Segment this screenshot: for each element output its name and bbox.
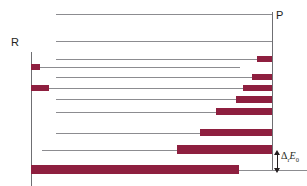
reaction-energy-label: ΔrE0 — [281, 151, 299, 165]
energy-level-line-2 — [56, 59, 272, 60]
product-bar-6 — [177, 145, 272, 154]
energy-level-line-4 — [56, 77, 272, 78]
reactant-label: R — [11, 37, 19, 48]
arrow-head-down-icon — [274, 168, 280, 173]
product-axis-line — [272, 12, 273, 170]
product-bar-0 — [257, 56, 272, 62]
product-bar-1 — [252, 74, 272, 80]
reaction-energy-arrow — [277, 153, 278, 170]
product-bar-3 — [236, 96, 272, 103]
energy-level-line-1 — [56, 41, 272, 42]
reactant-bar-0 — [31, 64, 40, 70]
energy-level-line-0 — [56, 14, 272, 15]
arrow-head-up-icon — [274, 150, 280, 155]
product-bar-5 — [200, 129, 272, 136]
reactant-bar-1 — [31, 85, 49, 91]
energy-level-line-3 — [33, 67, 240, 68]
product-label: P — [276, 10, 284, 21]
energy-level-line-5 — [33, 88, 243, 89]
ground-state-bar — [31, 165, 239, 174]
product-bar-4 — [216, 108, 272, 115]
energy-level-diagram: R P ΔrE0 — [0, 0, 307, 186]
product-bar-2 — [243, 85, 272, 91]
energy-subscript-zero: 0 — [296, 156, 299, 163]
